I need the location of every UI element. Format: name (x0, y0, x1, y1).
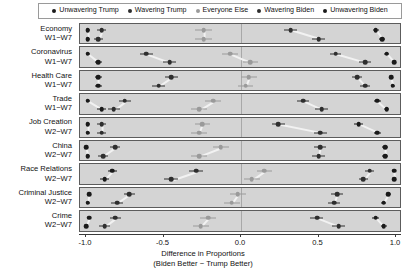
zero-reference-line (241, 164, 242, 183)
legend-item: Wavering Biden (257, 7, 314, 14)
panel-inner (80, 141, 400, 160)
data-point (110, 169, 115, 174)
data-point (112, 107, 117, 112)
data-point (381, 200, 386, 205)
legend-dot-icon (128, 9, 132, 13)
legend-dot-icon (52, 9, 56, 13)
panel-wave-label: W2−W7 (29, 127, 72, 137)
data-point (96, 83, 101, 88)
chart-panel (79, 210, 401, 231)
data-point (335, 192, 340, 197)
panel-inner (80, 24, 400, 43)
panel-issue-label: Coronavirus (31, 47, 72, 57)
panel-issue-label: Health Care (31, 71, 72, 81)
data-point (87, 192, 92, 197)
data-point (392, 169, 397, 174)
data-point (206, 215, 211, 220)
data-point (383, 154, 388, 159)
data-point (392, 60, 397, 65)
zero-reference-line (241, 24, 242, 43)
zero-reference-line (241, 141, 242, 160)
data-point (169, 177, 174, 182)
y-axis-panel-label: Health CareW1−W7 (31, 71, 72, 90)
data-point (374, 28, 379, 33)
data-point (384, 52, 389, 57)
data-point (167, 60, 172, 65)
chart-panel (79, 23, 401, 44)
chart-panel (79, 140, 401, 161)
panel-wave-label: W1−W7 (45, 103, 72, 113)
data-point (85, 122, 90, 127)
y-axis-panel-label: Job CreationW2−W7 (29, 117, 72, 136)
data-point (157, 83, 162, 88)
data-point (383, 145, 388, 150)
data-point (144, 52, 149, 57)
y-axis-panel-label: Criminal JusticeW2−W7 (18, 188, 72, 207)
x-axis-tick (318, 234, 319, 237)
data-point (319, 107, 324, 112)
legend-item: Unwavering Trump (52, 7, 119, 14)
data-point (102, 177, 107, 182)
wave-connector-line (171, 172, 196, 182)
data-point (250, 177, 255, 182)
y-axis-panel-label: EconomyW1−W7 (40, 24, 72, 43)
panel-issue-label: Crime (45, 211, 72, 221)
data-point (85, 154, 90, 159)
data-point (262, 169, 267, 174)
data-point (375, 98, 380, 103)
data-point (386, 192, 391, 197)
y-axis-panel-label: CoronavirusW1−W7 (31, 47, 72, 66)
panel-inner (80, 188, 400, 207)
data-point (127, 192, 132, 197)
zero-reference-line (241, 118, 242, 137)
chart-panel (79, 93, 401, 114)
data-point (194, 169, 199, 174)
legend-item: Everyone Else (196, 7, 249, 14)
x-axis-tick (240, 234, 241, 237)
panel-wave-label: W2−W7 (45, 220, 72, 230)
panel-inner (80, 211, 400, 230)
data-point (102, 224, 107, 229)
data-point (85, 28, 90, 33)
data-point (202, 28, 207, 33)
data-point (113, 145, 118, 150)
x-axis-label: Difference in Proportions (Biden Better … (0, 249, 406, 269)
data-point (96, 60, 101, 65)
legend-item: Unwavering Biden (323, 7, 388, 14)
data-point (392, 177, 397, 182)
data-point (357, 122, 362, 127)
panel-issue-label: Job Creation (29, 117, 72, 127)
data-point (301, 98, 306, 103)
data-point (101, 154, 106, 159)
data-point (228, 52, 233, 57)
data-point (363, 60, 368, 65)
zero-reference-line (241, 211, 242, 230)
y-axis-panel-label: ChinaW2−W7 (45, 141, 72, 160)
panel-issue-label: Race Relations (21, 164, 73, 174)
chart-panel (79, 187, 401, 208)
data-point (316, 37, 321, 42)
legend-label: Wavering Biden (264, 7, 314, 14)
chart-panel (79, 117, 401, 138)
x-axis-label-line1: Difference in Proportions (161, 249, 244, 258)
data-point (197, 154, 202, 159)
x-axis-tick-label: 0.0 (235, 238, 246, 247)
wave-connector-line (199, 148, 221, 158)
data-point (85, 52, 90, 57)
data-point (384, 107, 389, 112)
data-point (246, 75, 251, 80)
panel-inner (80, 164, 400, 183)
data-point (336, 224, 341, 229)
data-point (333, 52, 338, 57)
data-point (115, 200, 120, 205)
chart-legend: Unwavering TrumpWavering TrumpEveryone E… (38, 3, 402, 19)
data-point (96, 37, 101, 42)
data-point (99, 130, 104, 135)
panel-issue-label: Economy (40, 24, 72, 34)
chart-panel (79, 46, 401, 67)
data-point (85, 98, 90, 103)
x-axis-tick (85, 234, 86, 237)
panel-inner (80, 94, 400, 113)
panel-wave-label: W2−W7 (45, 150, 72, 160)
data-point (380, 37, 385, 42)
